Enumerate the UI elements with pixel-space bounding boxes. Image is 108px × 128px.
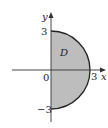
origin-label: 0 bbox=[43, 72, 49, 83]
y-tick-top-label: 3 bbox=[41, 26, 47, 37]
x-axis-label: x bbox=[101, 71, 107, 82]
region-diagram: y 3 −3 0 3 x D bbox=[0, 0, 108, 128]
region-label: D bbox=[59, 47, 68, 58]
y-tick-bottom-label: −3 bbox=[37, 104, 52, 115]
x-tick-label: 3 bbox=[91, 71, 97, 82]
y-axis-arrow-icon bbox=[49, 12, 54, 18]
y-axis-label: y bbox=[41, 11, 48, 22]
